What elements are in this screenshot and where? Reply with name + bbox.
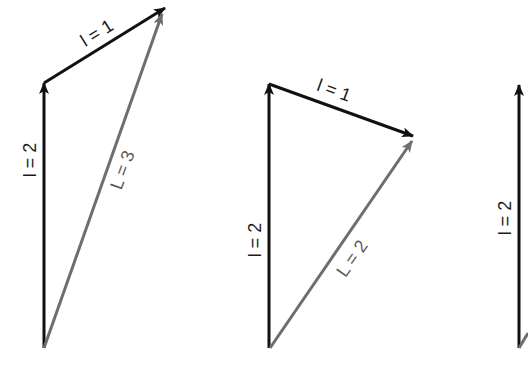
label-L2: L = 2 xyxy=(332,236,371,280)
vector-L-total-arrow xyxy=(44,14,162,348)
vector-addition-diagram: l = 2 l = 1 L = 3 l = 2 l = 1 L = 2 l = … xyxy=(0,0,528,373)
label-l2: l = 2 xyxy=(245,223,265,258)
label-l2: l = 2 xyxy=(20,143,40,178)
vector-L-total-arrow xyxy=(270,141,412,348)
label-l1: l = 1 xyxy=(77,15,117,50)
panel-L3: l = 2 l = 1 L = 3 xyxy=(20,8,165,348)
panel-L2: l = 2 l = 1 L = 2 xyxy=(245,75,413,348)
panel-L1-partial: l = 2 xyxy=(495,85,528,348)
label-l2: l = 2 xyxy=(495,201,515,236)
